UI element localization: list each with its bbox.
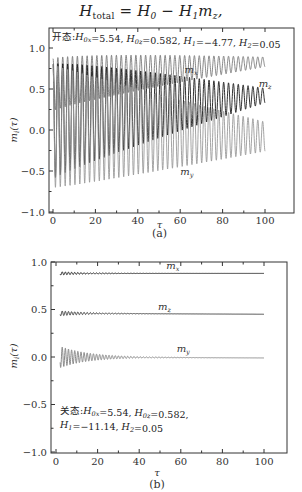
y-tick-label: 0.0: [29, 125, 45, 136]
y-tick-label: −0.5: [21, 166, 45, 177]
series-label-my: my: [177, 343, 190, 356]
x-tick-label: 40: [131, 215, 144, 226]
y-tick-label: 0.0: [31, 352, 47, 363]
parameter-annotation: 关态:H0x=5.54, H0z=0.582,: [60, 405, 189, 420]
parameter-annotation: H1=−11.14, H2=0.05: [59, 419, 163, 434]
y-tick-label: 0.5: [31, 304, 47, 315]
series-line-my: [53, 64, 265, 187]
series-line-mx: [60, 272, 264, 275]
series-line-my: [60, 347, 264, 367]
y-tick-label: −0.5: [23, 399, 47, 410]
y-axis-label: mi(τ): [8, 117, 21, 142]
chart-panel-b: 020406080100−1.0−0.50.00.51.0τmi(τ)(b)mx…: [8, 257, 287, 492]
y-tick-label: −1.0: [21, 207, 45, 218]
parameter-annotation: 开态:H0x=5.54, H0z=0.582, H1=−4.77, H2=0.0…: [52, 31, 281, 50]
y-tick-label: 0.5: [29, 84, 45, 95]
x-tick-label: 0: [50, 215, 56, 226]
x-tick-label: 80: [216, 215, 229, 226]
series-label-my: my: [180, 166, 193, 179]
x-axis-label: τ: [154, 467, 160, 478]
y-tick-label: 1.0: [31, 257, 47, 268]
panel-caption: (a): [152, 227, 167, 240]
y-tick-label: 1.0: [29, 43, 45, 54]
x-tick-label: 60: [174, 215, 187, 226]
x-tick-label: 100: [255, 215, 274, 226]
x-tick-label: 60: [174, 456, 187, 467]
x-tick-label: 20: [89, 215, 102, 226]
figure: 020406080100−1.0−0.50.00.51.0τmi(τ)(a)mx…: [0, 0, 302, 492]
series-label-mz: mz: [158, 301, 171, 314]
series-line-mz: [60, 311, 264, 316]
x-tick-label: 20: [91, 456, 104, 467]
y-tick-label: −1.0: [23, 447, 47, 458]
y-axis-label: mi(τ): [8, 343, 21, 368]
panel-caption: (b): [149, 478, 165, 491]
x-tick-label: 40: [133, 456, 146, 467]
series-label-mz: mz: [259, 78, 272, 91]
x-tick-label: 100: [254, 456, 273, 467]
chart-panel-a: 020406080100−1.0−0.50.00.51.0τmi(τ)(a)mx…: [8, 28, 294, 240]
x-tick-label: 0: [53, 456, 59, 467]
x-tick-label: 80: [216, 456, 229, 467]
